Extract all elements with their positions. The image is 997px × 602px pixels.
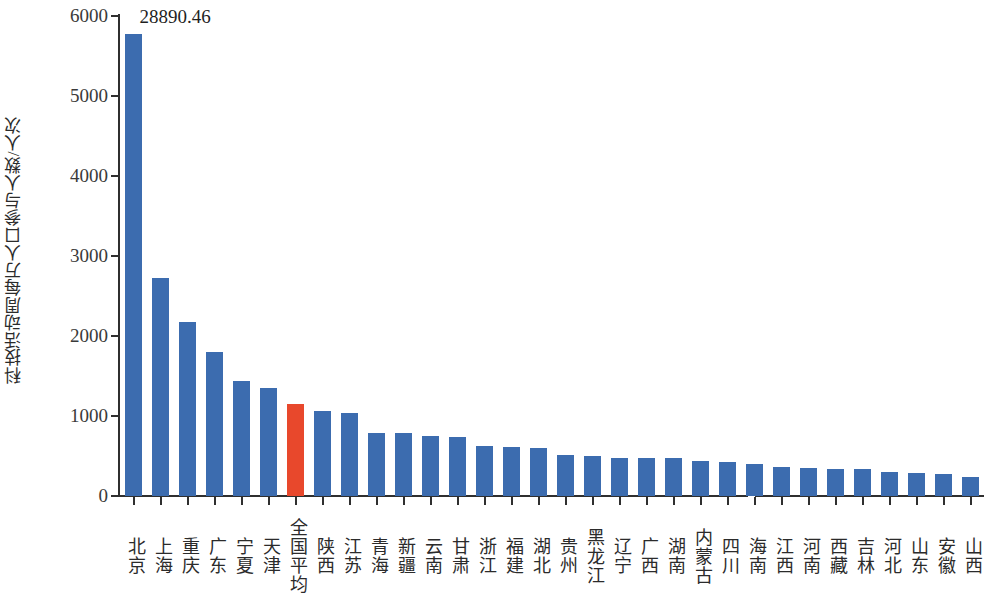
x-category-label: 宁夏	[231, 512, 253, 600]
bar-18[interactable]	[611, 458, 628, 496]
bar-12[interactable]	[449, 437, 466, 496]
x-category-label: 陕西	[312, 512, 334, 600]
x-category-label-text: 甘肃	[448, 512, 469, 600]
x-category-label-text: 内蒙古	[691, 512, 712, 600]
bar-0[interactable]	[125, 34, 142, 496]
x-category-label: 黑龙江	[582, 512, 604, 600]
x-tick-mark	[646, 497, 648, 505]
x-category-label-text: 吉林	[853, 512, 874, 600]
bar-3[interactable]	[206, 352, 223, 496]
bar-22[interactable]	[719, 462, 736, 496]
x-category-label: 吉林	[852, 512, 874, 600]
x-category-label-text: 天津	[259, 512, 280, 600]
bar-27[interactable]	[854, 469, 871, 496]
bar-26[interactable]	[827, 469, 844, 496]
x-category-label: 全国平均	[285, 512, 307, 600]
x-category-label-text: 湖南	[664, 512, 685, 600]
bar-13[interactable]	[476, 446, 493, 496]
x-category-label: 贵州	[555, 512, 577, 600]
x-tick-mark	[430, 497, 432, 505]
bar-2[interactable]	[179, 322, 196, 496]
x-category-label: 新疆	[393, 512, 415, 600]
x-category-label: 河南	[798, 512, 820, 600]
bar-20[interactable]	[665, 458, 682, 496]
x-tick-mark	[943, 497, 945, 505]
x-category-label: 浙江	[474, 512, 496, 600]
x-category-label-text: 黑龙江	[583, 512, 604, 600]
x-category-label-text: 山西	[961, 512, 982, 600]
x-category-label-text: 全国平均	[286, 512, 307, 600]
bar-30[interactable]	[935, 474, 952, 496]
x-category-label: 广西	[636, 512, 658, 600]
bar-11[interactable]	[422, 436, 439, 496]
bar-25[interactable]	[800, 468, 817, 496]
x-tick-mark	[187, 497, 189, 505]
bar-19[interactable]	[638, 458, 655, 496]
x-category-label: 北京	[123, 512, 145, 600]
bar-6[interactable]	[287, 404, 304, 496]
x-category-label-text: 山东	[907, 512, 928, 600]
x-category-label: 甘肃	[447, 512, 469, 600]
x-category-label: 福建	[501, 512, 523, 600]
x-category-label-text: 西藏	[826, 512, 847, 600]
x-category-label-text: 宁夏	[232, 512, 253, 600]
bar-17[interactable]	[584, 456, 601, 496]
x-tick-mark	[727, 497, 729, 505]
bar-31[interactable]	[962, 477, 979, 496]
x-tick-mark	[511, 497, 513, 505]
x-category-label: 山西	[960, 512, 982, 600]
bar-15[interactable]	[530, 448, 547, 496]
x-category-label: 内蒙古	[690, 512, 712, 600]
x-tick-mark	[403, 497, 405, 505]
x-category-label-text: 河南	[799, 512, 820, 600]
bar-5[interactable]	[260, 388, 277, 496]
bar-24[interactable]	[773, 467, 790, 496]
bar-8[interactable]	[341, 413, 358, 496]
x-tick-mark	[484, 497, 486, 505]
x-category-label: 广东	[204, 512, 226, 600]
x-tick-mark	[673, 497, 675, 505]
x-tick-mark	[214, 497, 216, 505]
bar-9[interactable]	[368, 433, 385, 496]
x-tick-mark	[457, 497, 459, 505]
x-tick-mark	[268, 497, 270, 505]
x-category-label-text: 安徽	[934, 512, 955, 600]
x-category-label: 西藏	[825, 512, 847, 600]
x-category-label-text: 陕西	[313, 512, 334, 600]
x-tick-mark	[862, 497, 864, 505]
x-category-label-text: 福建	[502, 512, 523, 600]
bar-7[interactable]	[314, 411, 331, 496]
bar-21[interactable]	[692, 461, 709, 496]
bar-29[interactable]	[908, 473, 925, 496]
x-tick-mark	[970, 497, 972, 505]
x-category-label-text: 河北	[880, 512, 901, 600]
x-category-label: 青海	[366, 512, 388, 600]
x-category-label-text: 广东	[205, 512, 226, 600]
bar-28[interactable]	[881, 472, 898, 496]
x-tick-mark	[565, 497, 567, 505]
bar-16[interactable]	[557, 455, 574, 496]
x-tick-mark	[160, 497, 162, 505]
bar-14[interactable]	[503, 447, 520, 496]
bar-4[interactable]	[233, 381, 250, 496]
x-category-label-text: 重庆	[178, 512, 199, 600]
x-category-label: 天津	[258, 512, 280, 600]
x-category-label: 安徽	[933, 512, 955, 600]
bar-10[interactable]	[395, 433, 412, 496]
x-category-label-text: 青海	[367, 512, 388, 600]
x-category-label: 江西	[771, 512, 793, 600]
x-category-label: 重庆	[177, 512, 199, 600]
x-tick-mark	[376, 497, 378, 505]
x-tick-mark	[700, 497, 702, 505]
x-tick-mark	[889, 497, 891, 505]
bar-23[interactable]	[746, 464, 763, 496]
x-category-label: 河北	[879, 512, 901, 600]
x-tick-mark	[538, 497, 540, 505]
x-tick-mark	[781, 497, 783, 505]
x-tick-mark	[592, 497, 594, 505]
x-category-label-text: 上海	[151, 512, 172, 600]
x-category-label: 海南	[744, 512, 766, 600]
chart-container: 科技活动周每万人口参与人数/人次 01000200030004000500060…	[0, 0, 997, 602]
x-category-label-text: 辽宁	[610, 512, 631, 600]
bar-1[interactable]	[152, 278, 169, 496]
